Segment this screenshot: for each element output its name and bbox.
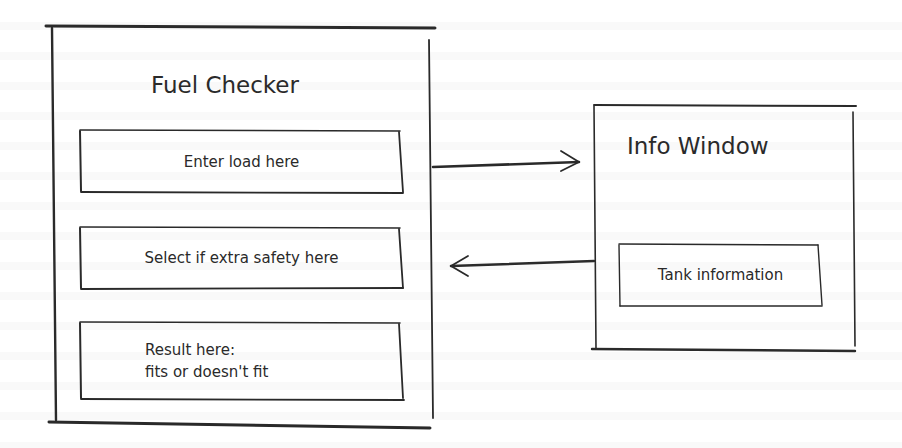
load-input-label: Enter load here <box>184 153 300 171</box>
extra-safety-label: Select if extra safety here <box>145 249 339 267</box>
fuel-checker-title: Fuel Checker <box>151 72 299 98</box>
result-display: Result here: fits or doesn't fit <box>80 322 403 399</box>
arrow-left-icon <box>451 256 594 276</box>
result-text: Result here: fits or doesn't fit <box>145 339 268 383</box>
tank-information-field[interactable]: Tank information <box>619 244 822 306</box>
extra-safety-select[interactable]: Select if extra safety here <box>80 227 403 289</box>
tank-information-label: Tank information <box>658 266 783 284</box>
load-input[interactable]: Enter load here <box>80 130 403 193</box>
arrow-right-icon <box>433 151 579 171</box>
info-window-title: Info Window <box>627 133 769 159</box>
